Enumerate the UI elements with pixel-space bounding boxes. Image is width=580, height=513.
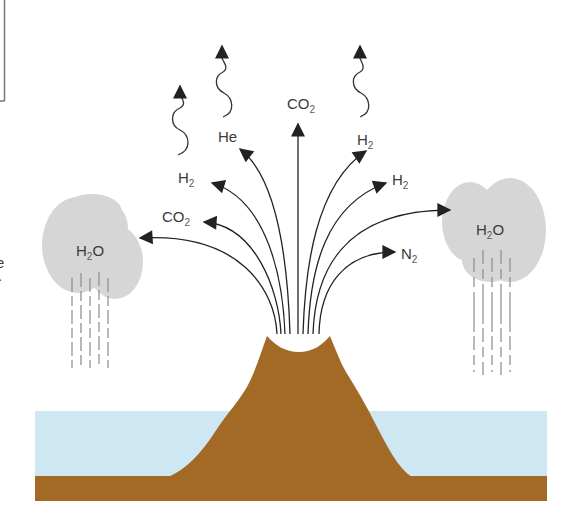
label-co2-left: CO2 bbox=[162, 208, 191, 228]
arrow-co2-left bbox=[204, 222, 281, 334]
sea-floor bbox=[35, 476, 547, 501]
arrow-to-right-cloud bbox=[313, 210, 450, 334]
cropped-frame bbox=[0, 0, 5, 101]
arrow-co2-to-left-cloud bbox=[140, 238, 277, 334]
escape-arrows bbox=[173, 46, 369, 155]
volcanic-outgassing-diagram: e . H2O H2O bbox=[0, 0, 580, 513]
label-co2-top: CO2 bbox=[287, 95, 316, 115]
emission-arrows bbox=[140, 124, 450, 334]
arrow-h2-upper-right bbox=[303, 151, 366, 334]
cropped-text-fragment: . bbox=[0, 267, 2, 284]
label-n2: N2 bbox=[401, 245, 418, 265]
volcano bbox=[168, 336, 412, 477]
label-h2-escape-left: H2 bbox=[178, 169, 195, 189]
wavy-arrow-h2-right bbox=[353, 46, 368, 117]
arrow-h2-right bbox=[308, 183, 386, 334]
arrow-h2-upper-left bbox=[212, 183, 285, 334]
label-he: He bbox=[218, 128, 237, 145]
wavy-arrow-he bbox=[216, 46, 231, 117]
label-h2-escape-right: H2 bbox=[357, 131, 374, 151]
label-h2-right: H2 bbox=[392, 171, 409, 191]
wavy-arrow-h2-left bbox=[173, 86, 189, 155]
